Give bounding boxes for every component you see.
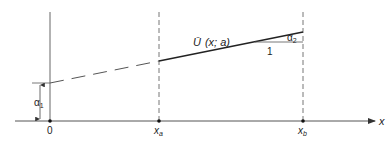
xb-point: [301, 119, 305, 123]
xa-point: [157, 119, 161, 123]
xa-label: xa: [153, 125, 163, 137]
origin-label: 0: [47, 125, 53, 136]
x-axis-label: x: [378, 115, 385, 127]
xb-label: xb: [297, 125, 307, 137]
slope-run-label: 1: [267, 46, 273, 57]
function-label: Ū(x; a): [193, 36, 230, 48]
alpha1-label: α1: [34, 97, 44, 109]
linear-approximation-diagram: Ū(x; a) 1 α2 α1 0 xa xb x: [0, 0, 391, 142]
extrapolated-line: [50, 61, 159, 83]
function-line: [159, 32, 303, 61]
origin-point: [48, 119, 52, 123]
